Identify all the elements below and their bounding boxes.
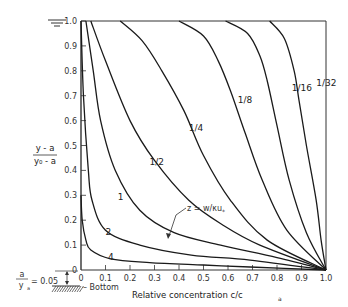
a-ratio-annotation: a y a = 0.05 xyxy=(16,270,78,291)
x-axis-ticks: 00.10.20.30.40.50.60.70.80.91.0 xyxy=(78,265,332,283)
curve-z-1 xyxy=(86,21,326,270)
y-tick-label: 0.9 xyxy=(64,42,77,51)
x-tick-label: 0.2 xyxy=(124,274,137,283)
y-tick-label: 0 xyxy=(72,266,77,275)
curves xyxy=(81,21,326,270)
y-tick-label: 1.0 xyxy=(64,17,77,26)
curve-label: 1/16 xyxy=(292,83,312,93)
curve-label: 1/8 xyxy=(238,95,253,105)
svg-text:a: a xyxy=(278,295,282,302)
svg-text:– Bottom: – Bottom xyxy=(83,283,119,292)
svg-text:a: a xyxy=(27,285,30,291)
svg-text:Relative concentration c/c: Relative concentration c/c xyxy=(132,290,243,300)
y-tick-label: 0.7 xyxy=(64,92,77,101)
curve-label: 4 xyxy=(108,252,114,262)
x-tick-label: 0.6 xyxy=(222,274,235,283)
curve-z-1-16 xyxy=(226,21,326,270)
curve-label: 1 xyxy=(118,192,124,202)
x-tick-label: 0.8 xyxy=(271,274,284,283)
curve-z-1-4 xyxy=(120,21,326,270)
curve-label: 1/2 xyxy=(150,157,164,167)
curve-label: 1/4 xyxy=(189,123,204,133)
x-tick-label: 0 xyxy=(78,274,83,283)
svg-text:y: y xyxy=(19,281,24,290)
svg-text:a: a xyxy=(20,270,25,279)
x-tick-label: 0.7 xyxy=(246,274,259,283)
x-tick-label: 0.1 xyxy=(99,274,112,283)
y-tick-label: 0.4 xyxy=(64,166,77,175)
x-tick-label: 0.5 xyxy=(197,274,210,283)
bottom-hatch-icon: – Bottom xyxy=(52,283,119,292)
curve-label: 1/32 xyxy=(316,78,336,88)
y-tick-label: 0.6 xyxy=(64,117,77,126)
x-tick-label: 0.4 xyxy=(173,274,186,283)
x-tick-label: 0.3 xyxy=(148,274,161,283)
concentration-profile-chart: 00.10.20.30.40.50.60.70.80.91.0 00.10.20… xyxy=(0,0,348,307)
y-tick-label: 0.3 xyxy=(64,191,77,200)
svg-text:y₀ - a: y₀ - a xyxy=(34,156,56,166)
curve-label: 2 xyxy=(106,227,112,237)
svg-text:y - a: y - a xyxy=(36,143,55,153)
y-axis-label: y - a y₀ - a xyxy=(33,143,57,166)
y-tick-label: 0.8 xyxy=(64,67,77,76)
y-tick-label: 0.2 xyxy=(64,216,77,225)
x-tick-label: 1.0 xyxy=(320,274,333,283)
svg-text:*: * xyxy=(222,208,225,215)
x-tick-label: 0.9 xyxy=(295,274,308,283)
x-axis-label: Relative concentration c/c a xyxy=(132,290,282,302)
y-axis-ticks: 00.10.20.30.40.50.60.70.80.91.0 xyxy=(64,17,86,275)
y-tick-label: 0.1 xyxy=(64,241,77,250)
y-tick-label: 0.5 xyxy=(64,142,77,151)
curve-z-1-8 xyxy=(179,21,326,270)
curve-z-1-32 xyxy=(270,21,326,270)
curve-labels: 1/321/161/81/41/2124 xyxy=(106,78,337,262)
svg-text:z = w/κu: z = w/κu xyxy=(187,204,222,213)
svg-text:= 0.05: = 0.05 xyxy=(31,277,58,286)
